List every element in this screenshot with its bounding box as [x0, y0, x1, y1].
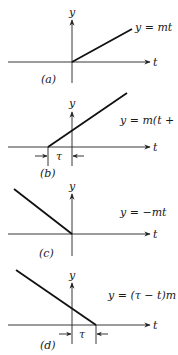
equation-label: y = −mt: [119, 206, 167, 219]
t-axis-label: t: [153, 228, 158, 241]
equation-label: y = mt: [134, 21, 173, 34]
ramp-line: [72, 29, 132, 62]
y-axis-label: y: [68, 180, 76, 193]
panel-caption: (c): [39, 247, 54, 260]
panel-caption: (a): [41, 73, 56, 86]
tau-label: τ: [56, 150, 63, 163]
panel-b: y t y = m(t + τ) τ (b): [8, 93, 178, 180]
panel-c: y t y = −mt (c): [8, 180, 167, 260]
equation-label: y = m(t + τ): [119, 114, 178, 127]
ramp-line: [48, 93, 127, 147]
ramp-line: [16, 270, 96, 325]
panel-d: y t y = (τ − t)m τ (d): [8, 269, 176, 352]
ramp-line: [14, 189, 72, 234]
y-axis-label: y: [68, 6, 76, 19]
tau-label: τ: [79, 328, 86, 341]
t-axis-label: t: [153, 56, 158, 69]
panel-caption: (d): [40, 339, 56, 352]
panel-caption: (b): [40, 167, 56, 180]
equation-label: y = (τ − t)m: [107, 289, 176, 302]
y-axis-label: y: [68, 269, 76, 282]
ramp-functions-diagram: y t y = mt (a) y t y = m(t + τ) τ (b) y …: [0, 0, 178, 355]
y-axis-label: y: [68, 97, 76, 110]
t-axis-label: t: [153, 141, 158, 154]
panel-a: y t y = mt (a): [8, 6, 173, 86]
t-axis-label: t: [153, 319, 158, 332]
